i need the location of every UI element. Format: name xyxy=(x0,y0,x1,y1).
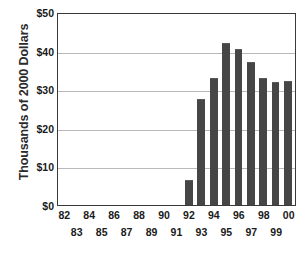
bar-slot xyxy=(96,14,108,205)
x-axis-slot: 84 xyxy=(83,208,95,244)
bar-chart: Thousands of 2000 Dollars $50$40$30$20$1… xyxy=(0,0,305,253)
x-axis-slot: 88 xyxy=(133,208,145,244)
x-axis-slot: 98 xyxy=(258,208,270,244)
x-axis-slot: 95 xyxy=(220,208,232,244)
x-axis-tick-label: 90 xyxy=(158,210,170,221)
bar[interactable] xyxy=(210,78,218,205)
x-axis-slot: 91 xyxy=(170,208,182,244)
x-axis-slot: 97 xyxy=(245,208,257,244)
bar-slot xyxy=(232,14,244,205)
x-axis-slot: 00 xyxy=(282,208,294,244)
y-axis-tick-label: $40 xyxy=(22,47,54,57)
x-axis-tick-label: 87 xyxy=(121,227,133,238)
x-axis-tick-label: 94 xyxy=(208,210,220,221)
y-axis-tick-labels: $50$40$30$20$10$0 xyxy=(22,13,54,206)
y-axis-tick-label: $30 xyxy=(22,85,54,95)
bar[interactable] xyxy=(222,43,230,205)
bar-slot xyxy=(121,14,133,205)
bar[interactable] xyxy=(185,180,193,205)
x-axis-slot: 87 xyxy=(120,208,132,244)
x-axis-slot: 96 xyxy=(233,208,245,244)
x-axis-slot: 86 xyxy=(108,208,120,244)
bar[interactable] xyxy=(272,82,280,205)
x-axis-slot: 89 xyxy=(145,208,157,244)
x-axis-tick-label: 88 xyxy=(133,210,145,221)
bar-slot xyxy=(245,14,257,205)
bar-slot xyxy=(146,14,158,205)
bar[interactable] xyxy=(235,49,243,205)
y-axis-tick-label: $50 xyxy=(22,8,54,18)
x-axis-tick-label: 83 xyxy=(71,227,83,238)
bar[interactable] xyxy=(247,62,255,205)
x-axis-tick-label: 92 xyxy=(183,210,195,221)
bar-slot xyxy=(84,14,96,205)
x-axis-tick-label: 97 xyxy=(245,227,257,238)
x-axis-tick-label: 93 xyxy=(196,227,208,238)
x-axis-slot: 94 xyxy=(208,208,220,244)
bar-slot xyxy=(170,14,182,205)
x-axis-tick-label: 95 xyxy=(220,227,232,238)
bar-slot xyxy=(282,14,294,205)
x-axis-tick-label: 84 xyxy=(83,210,95,221)
y-axis-tick-label: $0 xyxy=(22,201,54,211)
bar-slot xyxy=(195,14,207,205)
x-axis-tick-label: 98 xyxy=(258,210,270,221)
y-axis-tick-label: $10 xyxy=(22,162,54,172)
bar[interactable] xyxy=(259,78,267,205)
x-axis-slot: 90 xyxy=(158,208,170,244)
x-axis-tick-label: 85 xyxy=(96,227,108,238)
bar-slot xyxy=(71,14,83,205)
x-axis-tick-label: 89 xyxy=(146,227,158,238)
x-axis-slot: 92 xyxy=(183,208,195,244)
bar-slot xyxy=(220,14,232,205)
bars-layer xyxy=(58,14,295,205)
bar[interactable] xyxy=(284,81,292,205)
x-axis-tick-label: 00 xyxy=(283,210,295,221)
x-axis-slot: 82 xyxy=(58,208,70,244)
bar-slot xyxy=(109,14,121,205)
bar-slot xyxy=(133,14,145,205)
bar-slot xyxy=(158,14,170,205)
x-axis-tick-label: 86 xyxy=(108,210,120,221)
plot-area xyxy=(57,13,296,206)
bar-slot xyxy=(59,14,71,205)
y-axis-tick-label: $20 xyxy=(22,124,54,134)
bar-slot xyxy=(269,14,281,205)
x-axis-tick-label: 82 xyxy=(58,210,70,221)
x-axis-tick-label: 91 xyxy=(171,227,183,238)
x-axis-tick-label: 96 xyxy=(233,210,245,221)
x-axis-slot: 83 xyxy=(70,208,82,244)
x-axis-tick-labels: 82838485868788899091929394959697989900 xyxy=(57,208,296,244)
x-axis-slot: 93 xyxy=(195,208,207,244)
x-axis-slot: 85 xyxy=(95,208,107,244)
bar-slot xyxy=(257,14,269,205)
x-axis-tick-label: 99 xyxy=(270,227,282,238)
bar[interactable] xyxy=(197,99,205,205)
bar-slot xyxy=(183,14,195,205)
x-axis-slot: 99 xyxy=(270,208,282,244)
bar-slot xyxy=(208,14,220,205)
